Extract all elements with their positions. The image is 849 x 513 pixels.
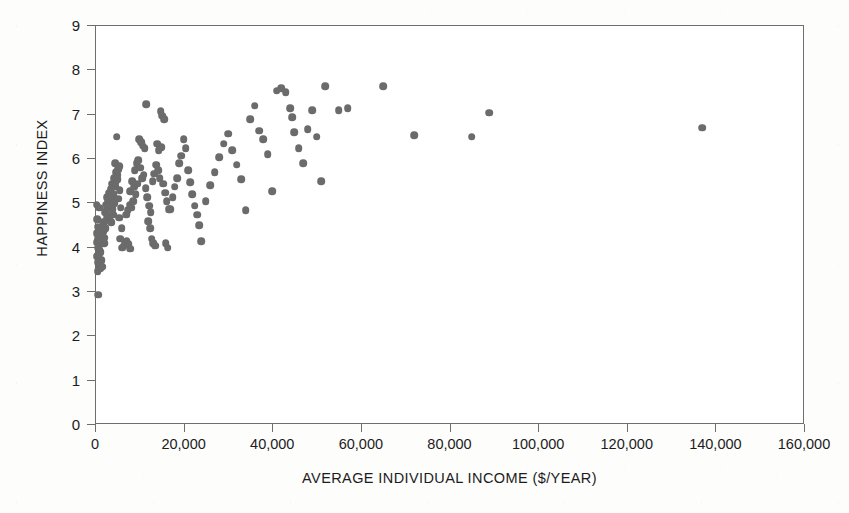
scatter-point	[116, 186, 124, 194]
y-axis-tick-label: 5	[54, 194, 80, 211]
scatter-point	[486, 109, 494, 117]
scatter-point	[186, 179, 194, 187]
scatter-point	[251, 102, 259, 110]
scatter-point	[195, 222, 203, 230]
scatter-point	[344, 105, 352, 113]
y-axis-tick-label: 8	[54, 61, 80, 78]
scatter-point	[379, 82, 387, 90]
y-axis-tick-label: 4	[54, 238, 80, 255]
scatter-point	[193, 211, 201, 219]
scatter-point	[98, 263, 106, 271]
scatter-point	[224, 130, 232, 138]
scatter-point	[140, 171, 148, 179]
scatter-point	[160, 115, 168, 123]
scatter-point	[175, 160, 183, 168]
x-axis-tick	[715, 424, 716, 432]
scatter-point	[268, 187, 276, 195]
x-axis-tick-label: 20,000	[161, 436, 205, 452]
scatter-point	[113, 133, 121, 141]
x-axis-tick-label: 40,000	[250, 436, 294, 452]
y-axis-tick	[87, 158, 95, 159]
x-axis-tick-label: 0	[91, 436, 99, 452]
y-axis-tick-label: 6	[54, 150, 80, 167]
y-axis-tick	[87, 335, 95, 336]
y-axis-tick	[87, 114, 95, 115]
scatter-point	[322, 82, 330, 90]
y-axis-tick-label: 1	[54, 371, 80, 388]
scatter-point	[154, 167, 162, 175]
scatter-point	[184, 167, 192, 175]
scatter-point	[246, 115, 254, 123]
x-axis-tick-label: 160,000	[778, 436, 830, 452]
scatter-point	[118, 224, 126, 232]
x-axis-tick	[184, 424, 185, 432]
scatter-point	[180, 136, 188, 144]
x-axis-tick-label: 120,000	[601, 436, 653, 452]
x-axis-tick	[272, 424, 273, 432]
scatter-point	[229, 146, 237, 154]
y-axis-tick	[87, 25, 95, 26]
scatter-point	[178, 152, 186, 160]
scatter-point	[135, 156, 143, 164]
scatter-point	[129, 198, 137, 206]
scatter-point	[108, 218, 116, 226]
scatter-point	[191, 202, 199, 210]
scatter-point	[143, 100, 151, 108]
scatter-point	[264, 151, 272, 159]
y-axis-title: HAPPINESS INDEX	[34, 68, 50, 308]
scatter-point	[159, 180, 167, 188]
scatter-point	[242, 207, 250, 215]
x-axis-tick	[538, 424, 539, 432]
scatter-point	[233, 161, 241, 169]
y-axis-tick	[87, 424, 95, 425]
scatter-point	[299, 160, 307, 168]
scatter-point	[202, 198, 210, 206]
x-axis-tick	[95, 424, 96, 432]
scatter-point	[127, 245, 135, 253]
x-axis-tick	[450, 424, 451, 432]
scatter-point	[304, 125, 312, 133]
scatter-point	[220, 140, 228, 148]
scatter-point	[468, 133, 476, 141]
scatter-point	[115, 162, 123, 170]
scatter-point	[182, 144, 190, 152]
scatter-point	[189, 191, 197, 199]
scatter-point	[158, 143, 166, 151]
plot-data-area	[95, 25, 804, 424]
x-axis-tick-label: 60,000	[339, 436, 383, 452]
y-axis-tick-label: 2	[54, 327, 80, 344]
scatter-plot-figure: HAPPINESS INDEX AVERAGE INDIVIDUAL INCOM…	[0, 0, 849, 513]
scatter-point	[101, 239, 109, 247]
scatter-point	[171, 183, 179, 191]
x-axis-title: AVERAGE INDIVIDUAL INCOME ($/YEAR)	[95, 470, 804, 486]
scatter-point	[94, 291, 102, 299]
scatter-point	[313, 133, 321, 141]
scatter-point	[237, 175, 245, 183]
scatter-point	[164, 244, 172, 252]
scatter-point	[206, 182, 214, 190]
scatter-point	[215, 153, 223, 161]
x-axis-tick	[627, 424, 628, 432]
scatter-point	[132, 191, 140, 199]
scatter-point	[282, 89, 290, 97]
scatter-point	[698, 124, 706, 132]
scatter-point	[146, 224, 154, 232]
y-axis-tick	[87, 380, 95, 381]
scatter-point	[141, 144, 149, 152]
scatter-point	[288, 113, 296, 121]
scatter-point	[308, 106, 316, 114]
scatter-point	[173, 174, 181, 182]
scatter-point	[167, 205, 175, 213]
scatter-points-layer	[95, 25, 804, 424]
scatter-point	[260, 136, 268, 144]
x-axis-tick-label: 140,000	[689, 436, 741, 452]
y-axis-tick	[87, 69, 95, 70]
scatter-point	[169, 193, 177, 201]
scatter-point	[143, 193, 151, 201]
scatter-point	[317, 177, 325, 185]
x-axis-tick-label: 80,000	[427, 436, 471, 452]
scatter-point	[151, 242, 159, 250]
scatter-point	[198, 238, 206, 246]
scatter-point	[295, 144, 303, 152]
x-axis-tick	[804, 424, 805, 432]
